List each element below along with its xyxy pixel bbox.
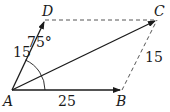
vector-AC	[12, 21, 155, 90]
point-label-D: D	[41, 3, 53, 19]
length-label-BC: 15	[145, 49, 163, 65]
parallelogram-vector-diagram: D C A B 15 75° 15 25	[0, 0, 170, 112]
angle-label: 75°	[27, 34, 52, 50]
point-label-A: A	[1, 93, 13, 109]
length-label-AB: 25	[58, 93, 76, 109]
point-label-C: C	[154, 3, 165, 19]
point-label-B: B	[115, 93, 126, 109]
